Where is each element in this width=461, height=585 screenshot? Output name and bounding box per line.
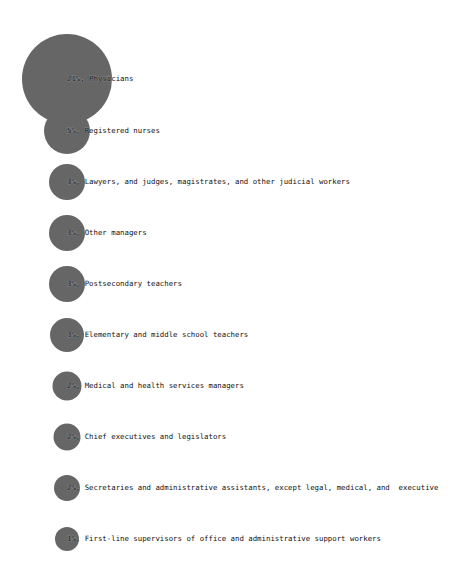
bubble-label-8: 2%, Secretaries and administrative assis… [67,483,438,492]
bubble-label-6: 2%, Medical and health services managers [67,381,244,390]
bubble-layer [22,34,112,551]
bubble-label-2: 3%, Lawyers, and judges, magistrates, an… [67,177,350,186]
bubble-label-7: 2%, Chief executives and legislators [67,432,226,441]
bubble-label-9: 1%, First-line supervisors of office and… [67,534,381,543]
bubble-chart: 21%, Physicians5%, Registered nurses3%, … [0,0,461,585]
bubble-label-5: 3%, Elementary and middle school teacher… [67,330,248,339]
bubble-label-0: 21%, Physicians [67,74,133,83]
bubble-label-1: 5%, Registered nurses [67,126,160,135]
label-layer: 21%, Physicians5%, Registered nurses3%, … [67,74,438,543]
bubble-label-4: 3%, Postsecondary teachers [67,279,182,288]
bubble-label-3: 3%, Other managers [67,228,147,237]
